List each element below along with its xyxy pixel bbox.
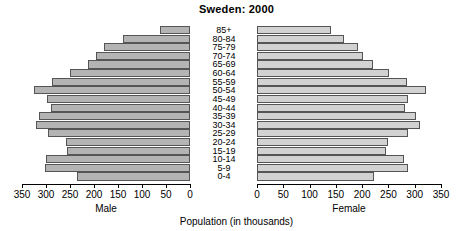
male-axis-tick (118, 184, 119, 188)
female-axis-tick (336, 184, 337, 188)
female-bar (257, 52, 363, 60)
female-bar-row (257, 104, 441, 112)
male-axis-tick (94, 184, 95, 188)
female-bar-row (257, 78, 441, 86)
age-group-label: 60-64 (191, 69, 257, 77)
male-bar (160, 26, 190, 34)
female-bar-row (257, 155, 441, 163)
male-bar (39, 112, 190, 120)
male-bar (46, 155, 190, 163)
female-axis-tick (415, 184, 416, 188)
female-bar (257, 86, 426, 94)
female-bar-row (257, 69, 441, 77)
male-axis-tick (190, 184, 191, 188)
male-axis-tick (142, 184, 143, 188)
male-bar (104, 43, 190, 51)
age-group-label: 65-69 (191, 60, 257, 68)
male-bar (48, 129, 190, 137)
age-group-label: 55-59 (191, 78, 257, 86)
female-axis-tick-label: 350 (421, 189, 461, 200)
female-bar (257, 43, 358, 51)
male-bar (34, 86, 190, 94)
male-bar (66, 138, 190, 146)
female-axis-tick (283, 184, 284, 188)
female-axis-tick (362, 184, 363, 188)
female-bar (257, 121, 420, 129)
male-bar (45, 164, 190, 172)
male-bar-row (22, 86, 190, 94)
male-bar-row (22, 121, 190, 129)
female-bar (257, 172, 374, 180)
female-axis-tick (388, 184, 389, 188)
age-group-label: 5-9 (191, 164, 257, 172)
female-bar-row (257, 172, 441, 180)
female-x-axis-line (257, 184, 441, 185)
male-bar (70, 69, 190, 77)
female-bar (257, 112, 416, 120)
age-group-label: 15-19 (191, 147, 257, 155)
age-group-label: 70-74 (191, 52, 257, 60)
male-bar (88, 60, 190, 68)
male-bar-row (22, 138, 190, 146)
male-axis-tick-label: 350 (2, 189, 42, 200)
female-axis-tick (257, 184, 258, 188)
age-group-axis-labels: 0-45-910-1415-1920-2425-2930-3435-3940-4… (191, 26, 257, 181)
male-bar-row (22, 78, 190, 86)
age-group-label: 20-24 (191, 138, 257, 146)
female-bar (257, 155, 404, 163)
x-axis-title: Population (in thousands) (0, 216, 473, 227)
female-plot-panel (257, 26, 441, 181)
age-group-label: 30-34 (191, 121, 257, 129)
female-bar (257, 78, 407, 86)
female-bar-row (257, 147, 441, 155)
male-bar-row (22, 43, 190, 51)
male-bar-row (22, 129, 190, 137)
population-pyramid-chart: Sweden: 2000 0-45-910-1415-1920-2425-293… (0, 0, 473, 231)
male-bar-row (22, 26, 190, 34)
female-bar-row (257, 60, 441, 68)
female-bar-row (257, 52, 441, 60)
female-bar (257, 104, 405, 112)
female-bar-row (257, 43, 441, 51)
male-axis-tick (46, 184, 47, 188)
male-bar-row (22, 35, 190, 43)
male-bar-row (22, 155, 190, 163)
male-bar (51, 104, 190, 112)
male-axis-caption: Male (46, 203, 166, 214)
female-bar (257, 129, 408, 137)
female-bar (257, 69, 389, 77)
female-bar-row (257, 95, 441, 103)
chart-title: Sweden: 2000 (0, 3, 473, 15)
female-bar-row (257, 112, 441, 120)
age-group-label: 75-79 (191, 43, 257, 51)
age-group-label: 40-44 (191, 104, 257, 112)
female-bar-row (257, 35, 441, 43)
male-bar-row (22, 69, 190, 77)
age-group-label: 35-39 (191, 112, 257, 120)
female-bar-row (257, 138, 441, 146)
male-bar (123, 35, 190, 43)
male-bar-group (22, 26, 190, 181)
female-bar (257, 147, 386, 155)
age-group-label: 25-29 (191, 129, 257, 137)
male-bar (96, 52, 190, 60)
female-bar-row (257, 86, 441, 94)
age-group-label: 80-84 (191, 35, 257, 43)
age-group-label: 10-14 (191, 155, 257, 163)
female-axis-tick (310, 184, 311, 188)
female-bar-row (257, 164, 441, 172)
male-bar-row (22, 112, 190, 120)
male-bar (77, 172, 190, 180)
female-axis-caption: Female (289, 203, 409, 214)
female-bar (257, 95, 408, 103)
female-bar-row (257, 26, 441, 34)
male-axis-tick (22, 184, 23, 188)
female-bar (257, 26, 331, 34)
female-bar (257, 60, 373, 68)
male-bar-row (22, 172, 190, 180)
male-bar-row (22, 104, 190, 112)
male-bar (52, 78, 190, 86)
male-axis-tick (166, 184, 167, 188)
male-axis-tick (70, 184, 71, 188)
age-group-label: 45-49 (191, 95, 257, 103)
